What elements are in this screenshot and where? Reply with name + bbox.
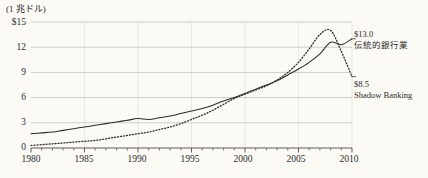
vertical-gridlines-group <box>85 22 353 148</box>
x-axis-ticks-group <box>31 148 352 153</box>
chart-container: (1 兆ドル) $15 12 9 6 3 0 1980 1985 1990 19… <box>0 0 428 178</box>
annotation-leader-lines <box>352 39 356 77</box>
plot-area <box>0 0 428 178</box>
